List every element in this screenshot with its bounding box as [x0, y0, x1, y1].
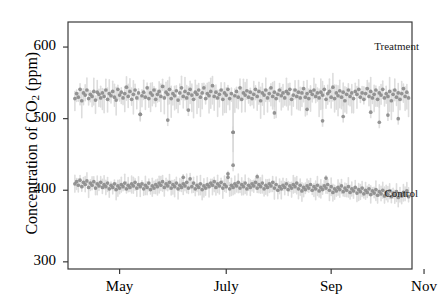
data-point — [199, 95, 203, 99]
data-point — [190, 93, 194, 97]
data-point — [360, 186, 364, 190]
data-point — [281, 91, 285, 95]
data-point — [207, 185, 211, 189]
data-point — [298, 96, 302, 100]
data-point — [400, 92, 404, 96]
x-axis-tick-label: Nov — [394, 278, 442, 295]
data-point — [135, 96, 139, 100]
data-point — [133, 88, 137, 92]
data-point — [183, 184, 187, 188]
data-point — [133, 181, 137, 185]
data-point — [118, 186, 122, 190]
data-point — [224, 185, 228, 189]
data-point — [350, 91, 354, 95]
data-point — [90, 95, 94, 99]
data-point — [128, 186, 132, 190]
data-point — [175, 181, 179, 185]
data-point-outlier — [273, 111, 277, 115]
y-axis-tick-label: 400 — [16, 180, 56, 197]
data-point — [252, 184, 256, 188]
data-point — [274, 97, 278, 101]
data-point — [168, 87, 172, 91]
data-point — [111, 90, 115, 94]
data-point — [340, 95, 344, 99]
data-point — [338, 188, 342, 192]
data-point — [326, 183, 330, 187]
data-point — [269, 86, 273, 90]
data-point — [106, 97, 110, 101]
data-point — [386, 95, 390, 99]
data-point — [290, 97, 294, 101]
data-point — [403, 95, 407, 99]
data-point — [245, 89, 249, 93]
data-point — [240, 97, 244, 101]
data-point — [114, 188, 118, 192]
data-point — [183, 90, 187, 94]
data-point — [80, 99, 84, 103]
data-point — [348, 191, 352, 195]
data-point — [266, 96, 270, 100]
data-point — [248, 186, 252, 190]
data-point — [209, 90, 213, 94]
data-point — [157, 90, 161, 94]
data-point — [175, 89, 179, 93]
data-point — [262, 187, 266, 191]
data-point — [331, 191, 335, 195]
data-point — [293, 185, 297, 189]
data-point — [379, 192, 383, 196]
data-point — [145, 186, 149, 190]
data-point — [197, 186, 201, 190]
data-point-outlier — [166, 118, 170, 122]
data-point — [288, 87, 292, 91]
data-point — [97, 92, 101, 96]
data-point — [402, 87, 406, 91]
data-point — [374, 88, 378, 92]
data-point — [207, 94, 211, 98]
data-point — [329, 95, 333, 99]
y-axis-tick-label: 600 — [16, 37, 56, 54]
data-point — [188, 177, 192, 181]
data-point — [80, 185, 84, 189]
data-point — [159, 183, 163, 187]
data-point — [228, 187, 232, 191]
data-point — [101, 91, 105, 95]
y-axis-tick-label: 500 — [16, 109, 56, 126]
data-point — [369, 193, 373, 197]
data-point — [254, 181, 258, 185]
data-point — [119, 90, 123, 94]
data-point — [329, 185, 333, 189]
data-point — [243, 181, 247, 185]
data-point — [156, 185, 160, 189]
data-point — [362, 192, 366, 196]
data-point — [360, 91, 364, 95]
data-point — [192, 97, 196, 101]
data-point — [321, 188, 325, 192]
y-axis-tick-label: 300 — [16, 252, 56, 269]
data-point — [92, 90, 96, 94]
data-point — [383, 96, 387, 100]
data-point — [347, 185, 351, 189]
data-point — [396, 91, 400, 95]
data-point — [276, 92, 280, 96]
data-point — [305, 92, 309, 96]
data-point — [376, 193, 380, 197]
data-point — [216, 96, 220, 100]
data-point-outlier — [305, 107, 309, 111]
data-point — [178, 91, 182, 95]
data-point — [142, 187, 146, 191]
data-point-outlier — [181, 176, 185, 180]
data-point — [314, 187, 318, 191]
data-point — [254, 87, 258, 91]
data-point — [297, 90, 301, 94]
data-point — [286, 188, 290, 192]
data-point — [286, 92, 290, 96]
data-point — [169, 186, 173, 190]
data-point — [75, 180, 79, 184]
data-point — [125, 187, 129, 191]
data-point — [94, 186, 98, 190]
data-point — [352, 97, 356, 101]
data-point — [193, 187, 197, 191]
data-point — [341, 190, 345, 194]
data-point — [302, 87, 306, 91]
data-point — [309, 183, 313, 187]
